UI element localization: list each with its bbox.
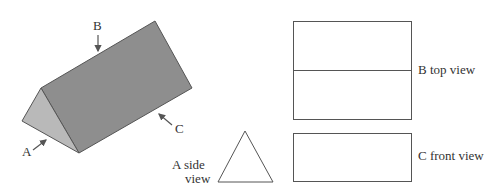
side-view-triangle [218,131,273,182]
prism-3d [22,21,192,153]
label-a: A [22,145,31,159]
arrow-c [159,114,172,125]
side-view-label-line2: view [185,172,210,186]
front-view-label: C front view [418,149,484,163]
top-view-label: B top view [418,63,475,77]
arrow-a [33,140,46,150]
label-b: B [93,19,102,33]
label-c: C [175,122,184,136]
side-view-label-line1: A side [172,158,205,172]
front-view-rect [294,134,412,182]
diagram-canvas [0,0,503,195]
